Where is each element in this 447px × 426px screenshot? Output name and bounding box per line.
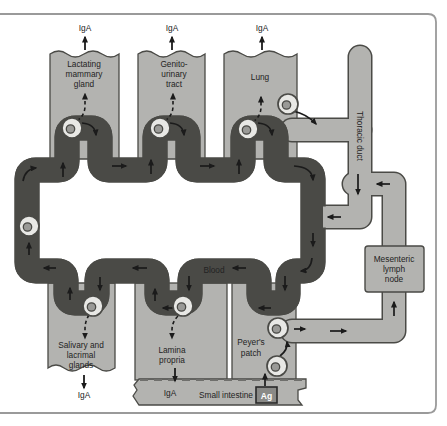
mammary-label-line3: gland [74,79,95,89]
lymphocyte-cell-icon [150,118,170,138]
mesenteric-node-label-line2: lymph [383,264,406,274]
iga-label-lung: IgA [256,23,269,33]
genitourinary-label-line3: tract [166,79,183,89]
lung-label: Lung [251,72,270,82]
mammary-label-line1: Lactating [67,59,101,69]
mesenteric-node-label-line3: node [385,274,404,284]
iga-label-salivary: IgA [78,390,91,400]
salivary-label-line2: lacrimal [67,350,96,360]
lymphocyte-cell-icon [238,119,258,139]
lymphocyte-cell-icon [62,118,82,138]
salivary-label-line3: glands [69,360,93,370]
blood-label: Blood [203,265,225,275]
lymphocyte-cell-icon [19,216,39,236]
lamina-propria-label-line1: Lamina [158,345,186,355]
mesenteric-node-label-line1: Mesenteric [374,254,415,264]
peyers-patch-label-line1: Peyer's [237,337,264,347]
lamina-propria-label-line2: propria [159,355,185,365]
lymphocyte-cell-icon [267,356,287,376]
lymphocyte-cell-icon [83,296,103,316]
peyers-patch-label-line2: patch [241,348,262,358]
peyers-channel-fill [292,287,394,331]
genitourinary-label-line1: Genito- [160,59,187,69]
iga-label-lamina: IgA [164,388,177,398]
lymphocyte-cell-icon [268,318,288,338]
mammary-label-line2: mammary [66,69,104,79]
lymphocyte-cell-icon [278,94,298,114]
mucosal-immunity-diagram: IgA IgA IgA Lactating mammary gland Geni… [0,0,447,426]
small-intestine-label: Small intestine [199,390,253,400]
iga-label-mammary: IgA [79,23,92,33]
genitourinary-label-line2: urinary [161,69,187,79]
lymphocyte-cell-icon [173,296,193,316]
thoracic-duct-label: Thoracic duct [355,111,365,161]
diagram-canvas: IgA IgA IgA Lactating mammary gland Geni… [0,0,447,426]
antigen-label: Ag [261,391,272,401]
iga-label-genitourinary: IgA [166,23,179,33]
salivary-label-line1: Salivary and [58,340,104,350]
